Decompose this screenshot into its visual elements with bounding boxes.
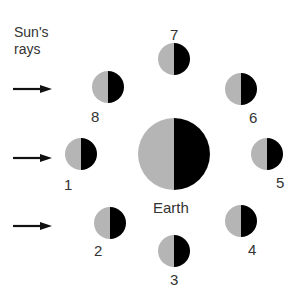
lit-half [225, 73, 241, 105]
moon-position-label: 7 [170, 27, 178, 42]
sun-ray-arrow-icon [13, 85, 52, 93]
dark-half [241, 205, 257, 237]
moon-position-label: 1 [64, 177, 72, 192]
sun-rays-label-line1: Sun's [14, 24, 49, 40]
earth-icon [138, 118, 210, 190]
dark-half [108, 71, 124, 103]
lit-half [94, 207, 110, 239]
lit-half [138, 118, 174, 190]
moon-position-label: 8 [91, 109, 99, 124]
moon-position-label: 3 [170, 272, 178, 287]
moon-position-2-icon [94, 207, 126, 239]
dark-half [267, 138, 283, 170]
moon-position-3-icon [158, 235, 190, 267]
sun-ray-arrow-icon [13, 222, 52, 230]
moon-position-6-icon [225, 73, 257, 105]
sun-rays-label-line2: rays [14, 41, 40, 57]
moon-phase-diagram [0, 0, 302, 306]
dark-half [110, 207, 126, 239]
lit-half [251, 138, 267, 170]
moon-position-label: 6 [249, 110, 257, 125]
lit-half [225, 205, 241, 237]
moon-position-7-icon [158, 43, 190, 75]
lit-half [65, 138, 81, 170]
lit-half [158, 43, 174, 75]
earth-label: Earth [153, 200, 189, 215]
moon-position-5-icon [251, 138, 283, 170]
sun-ray-arrow-icon [13, 154, 52, 162]
moon-position-label: 4 [248, 242, 256, 257]
dark-half [174, 43, 190, 75]
moon-position-4-icon [225, 205, 257, 237]
dark-half [81, 138, 97, 170]
lit-half [158, 235, 174, 267]
lit-half [92, 71, 108, 103]
dark-half [174, 118, 210, 190]
dark-half [241, 73, 257, 105]
moon-position-1-icon [65, 138, 97, 170]
dark-half [174, 235, 190, 267]
moon-position-label: 2 [94, 243, 102, 258]
moon-position-8-icon [92, 71, 124, 103]
moon-position-label: 5 [276, 175, 284, 190]
